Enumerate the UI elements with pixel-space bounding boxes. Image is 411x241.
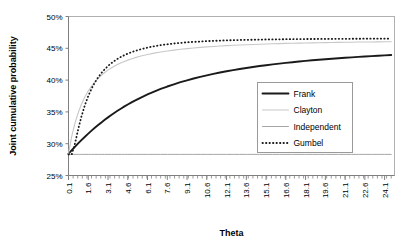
- legend-label: Independent: [294, 122, 342, 132]
- x-tick-label: 10.6: [203, 182, 212, 198]
- legend-label: Frank: [294, 89, 316, 99]
- chart-figure: 25%30%35%40%45%50%0.11.63.14.66.17.69.11…: [0, 0, 411, 241]
- legend-label: Clayton: [294, 105, 323, 115]
- y-axis: 25%30%35%40%45%50%: [46, 13, 68, 181]
- x-tick-label: 16.6: [282, 182, 291, 198]
- x-tick-label: 9.1: [183, 182, 192, 194]
- y-tick-label: 35%: [46, 108, 62, 117]
- x-tick-label: 22.6: [361, 182, 370, 198]
- y-tick-label: 50%: [46, 13, 62, 22]
- x-tick-label: 13.6: [242, 182, 251, 198]
- joint-cumulative-probability-chart: 25%30%35%40%45%50%0.11.63.14.66.17.69.11…: [0, 0, 411, 241]
- y-tick-label: 40%: [46, 76, 62, 85]
- y-tick-label: 25%: [46, 172, 62, 181]
- x-tick-label: 12.1: [223, 182, 232, 198]
- legend: FrankClaytonIndependentGumbel: [258, 83, 353, 153]
- x-axis-title: Theta: [219, 228, 244, 238]
- x-tick-label: 15.1: [262, 182, 271, 198]
- x-tick-label: 4.6: [124, 182, 133, 194]
- x-axis: 0.11.63.14.66.17.69.110.612.113.615.116.…: [65, 176, 395, 199]
- y-tick-label: 45%: [46, 44, 62, 53]
- legend-label: Gumbel: [294, 138, 324, 148]
- x-tick-label: 7.6: [163, 182, 172, 194]
- x-tick-label: 3.1: [104, 182, 113, 194]
- x-tick-label: 24.1: [381, 182, 390, 198]
- x-tick-label: 18.1: [302, 182, 311, 198]
- x-tick-label: 1.6: [84, 182, 93, 194]
- x-tick-label: 21.1: [341, 182, 350, 198]
- x-tick-label: 0.1: [65, 182, 74, 194]
- y-tick-label: 30%: [46, 140, 62, 149]
- x-tick-label: 6.1: [144, 182, 153, 194]
- y-axis-title: Joint cumulative probability: [8, 36, 18, 156]
- x-tick-label: 19.6: [321, 182, 330, 198]
